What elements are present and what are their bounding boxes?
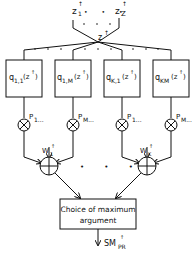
adder-icon [40,157,58,175]
box-q1M-sub: 1,M [62,77,73,84]
box-output-lines [24,97,171,118]
mult-sub: 1... [34,116,44,123]
input-first-sup: ↑ [78,0,83,7]
input-last-sup: ↑ [122,0,127,7]
mult-sub: M... [181,116,192,123]
weight-sub: 1 [50,151,53,157]
weight-sup: ↑ [149,143,153,149]
weight-sup: ↑ [51,143,55,149]
likelihood-boxes: q 1,1 (z ↑ ) q 1,M (z ↑ ) q K,1 (z ↑ ) q… [6,60,189,97]
mult-label: P [78,113,82,121]
classifier-diagram: z ↑ 1 • • • z ↑ Z z ↑ q 1,1 (z ↑ ) q 1,M [0,0,193,253]
choice-box-line2: argument [80,216,117,225]
weight-label: W [140,147,147,155]
merge-dots [83,23,111,25]
weight-label: W [42,147,49,155]
box-q1M-arg: (z [74,73,81,81]
mult-label: P [127,113,131,121]
choice-box-line1: Choice of maximum [60,205,135,214]
between-dots: • • • [80,163,142,171]
input-first: z [72,6,77,16]
box-qK1-sub: K,1 [111,77,121,84]
mult-label: P [29,113,33,121]
input-first-sub: 1 [78,10,82,17]
mult-sub: M... [83,116,94,123]
adder-labels: W ↑ 1 W ↑ K [42,143,153,157]
box-qKM-close: ) [183,73,186,81]
fanout-dots [34,48,159,50]
box-qK1-close: ) [134,73,137,81]
choice-box: Choice of maximum argument [60,199,136,229]
merged-z-sup: ↑ [104,29,109,36]
box-qKM-sub: KM [160,77,169,84]
input-last-sub: Z [121,10,126,18]
output-sm: SM [104,239,116,248]
adder-output-lines [55,173,141,198]
input-last: z [115,6,120,16]
input-vectors: z ↑ 1 • • • z ↑ Z [72,0,128,18]
box-qKM-arg: (z [171,73,178,81]
box-q11-arg: (z [23,73,30,81]
output-label: SM ↑ PR [104,234,126,250]
output-sub: PR [118,243,126,250]
box-q1M-close: ) [86,73,89,81]
box-q11-close: ) [35,73,38,81]
weight-sub: K [148,151,152,157]
mult-sub: 1... [132,116,142,123]
mult-label: P [176,113,180,121]
input-merge-lines [73,18,119,42]
output-sup: ↑ [120,234,124,240]
fanout-lines [24,42,171,60]
box-qK1-arg: (z [122,73,129,81]
merged-z: z [98,33,102,42]
